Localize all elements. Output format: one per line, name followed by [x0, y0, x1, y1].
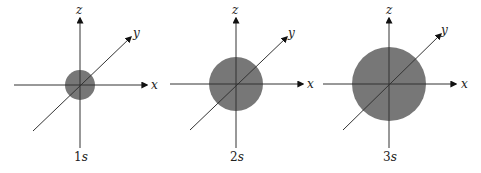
x-axis-label: x	[461, 77, 468, 91]
y-axis-label: y	[440, 23, 448, 37]
caption-1s: 1s	[74, 150, 88, 164]
z-axis-label: z	[75, 3, 83, 17]
orbital-diagram: x z y 1s x z y 2s x z	[0, 0, 481, 173]
x-axis-label: x	[151, 78, 158, 92]
caption-2s: 2s	[230, 150, 244, 164]
caption-3s: 3s	[383, 150, 397, 164]
panel-2s: x z y 2s	[170, 3, 314, 164]
y-axis-label: y	[132, 26, 140, 40]
y-axis	[33, 37, 131, 131]
z-axis-label: z	[385, 3, 393, 17]
x-axis-label: x	[307, 77, 314, 91]
z-axis-label: z	[231, 3, 239, 17]
panel-1s: x z y 1s	[14, 3, 158, 164]
panel-3s: x z y 3s	[323, 3, 468, 164]
y-axis-label: y	[287, 26, 295, 40]
